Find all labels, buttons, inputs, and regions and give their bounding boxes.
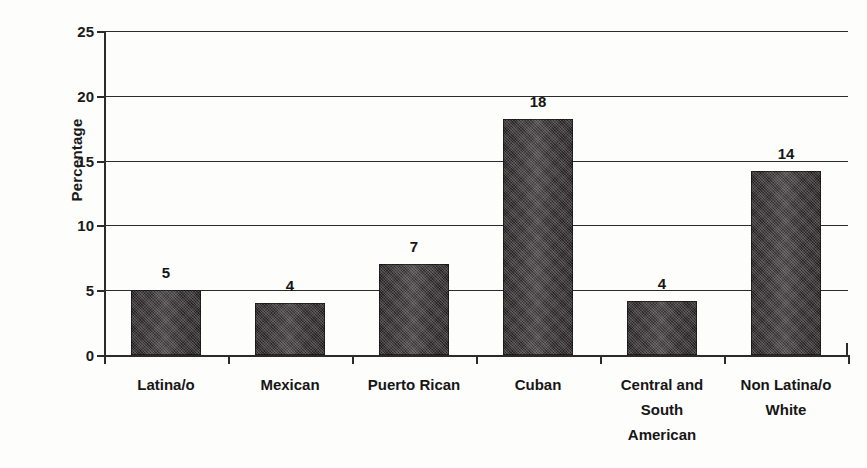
x-axis-label-line: American (592, 422, 732, 447)
y-tick-label-5: 5 (54, 282, 94, 299)
y-tick-label-25: 25 (54, 23, 94, 40)
bar-value-label: 4 (658, 275, 666, 292)
bar-value-label: 5 (162, 264, 170, 281)
x-axis-category-labels: Latina/oMexicanPuerto RicanCubanCentral … (104, 372, 848, 464)
gridline-10 (104, 225, 848, 226)
x-axis-label: Central andSouthAmerican (592, 372, 732, 447)
x-axis-right-cap (846, 343, 848, 355)
y-tick-label-15: 15 (54, 152, 94, 169)
x-axis-label: Non Latina/oWhite (716, 372, 856, 422)
bar[interactable] (379, 264, 449, 355)
x-tick-mark (104, 355, 106, 364)
x-axis-label: Mexican (220, 372, 360, 397)
x-axis-label: Latina/o (96, 372, 236, 397)
y-tick-label-0: 0 (54, 347, 94, 364)
y-tick-mark-5 (97, 290, 104, 292)
bar-value-label: 14 (778, 145, 795, 162)
x-tick-mark (352, 355, 354, 364)
gridline-20 (104, 96, 848, 97)
x-tick-mark (600, 355, 602, 364)
x-axis-label: Puerto Rican (344, 372, 484, 397)
x-tick-mark (476, 355, 478, 364)
gridline-15 (104, 161, 848, 162)
x-tick-mark (724, 355, 726, 364)
x-axis-label-line: Central and (592, 372, 732, 397)
bar[interactable] (627, 301, 697, 355)
gridline-5 (104, 290, 848, 291)
y-axis-line (104, 31, 106, 355)
bar-value-label: 18 (530, 93, 547, 110)
y-tick-label-10: 10 (54, 217, 94, 234)
plot-area: 54718414 (104, 31, 848, 355)
bar[interactable] (255, 303, 325, 355)
gridline-25 (104, 31, 848, 32)
x-axis-label-line: Cuban (468, 372, 608, 397)
y-tick-mark-0 (97, 355, 104, 357)
bar[interactable] (131, 290, 201, 355)
y-tick-label-20: 20 (54, 87, 94, 104)
bar[interactable] (503, 119, 573, 355)
x-axis-label-line: South (592, 397, 732, 422)
y-tick-mark-15 (97, 161, 104, 163)
bar-value-label: 4 (286, 277, 294, 294)
bar-chart: Percentage 54718414 0510152025 Latina/oM… (0, 0, 867, 468)
x-axis-label: Cuban (468, 372, 608, 397)
bar[interactable] (751, 171, 821, 355)
x-axis-label-line: White (716, 397, 856, 422)
x-axis-label-line: Latina/o (96, 372, 236, 397)
y-tick-mark-20 (97, 96, 104, 98)
x-axis-label-line: Mexican (220, 372, 360, 397)
y-tick-mark-10 (97, 225, 104, 227)
x-tick-mark (228, 355, 230, 364)
x-tick-mark (848, 355, 850, 364)
x-axis-label-line: Non Latina/o (716, 372, 856, 397)
y-tick-mark-25 (97, 31, 104, 33)
bar-value-label: 7 (410, 238, 418, 255)
x-axis-label-line: Puerto Rican (344, 372, 484, 397)
